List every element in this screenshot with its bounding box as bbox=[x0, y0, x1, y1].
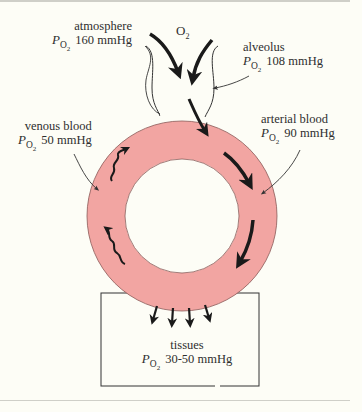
tissues-po2: PO230-50 mmHg bbox=[132, 352, 242, 368]
arterial-blood-label: arterial blood PO290 mmHg bbox=[261, 112, 335, 142]
o-subscript: O2 bbox=[26, 140, 36, 150]
p-symbol: P bbox=[142, 351, 150, 366]
arterial-blood-po2: PO290 mmHg bbox=[261, 126, 335, 142]
o2-molecule: O bbox=[176, 23, 185, 38]
alveolus-po2: PO2108 mmHg bbox=[243, 54, 323, 70]
tissues-name: tissues bbox=[132, 338, 242, 352]
atmosphere-value: 160 mmHg bbox=[75, 33, 132, 47]
tissues-value: 30-50 mmHg bbox=[165, 352, 232, 366]
p-symbol: P bbox=[243, 53, 251, 68]
blood-ring bbox=[87, 121, 277, 311]
o2-subscript: 2 bbox=[185, 32, 189, 41]
alveolus-label: alveolus PO2108 mmHg bbox=[243, 40, 323, 70]
o2-inflow-label: O2 bbox=[176, 23, 189, 41]
o-subscript: O2 bbox=[269, 133, 279, 143]
venous-blood-name: venous blood bbox=[18, 119, 92, 133]
alveolus-name: alveolus bbox=[243, 40, 323, 54]
alveolus-sac bbox=[146, 46, 218, 117]
arterial-blood-value: 90 mmHg bbox=[284, 126, 334, 140]
venous-blood-value: 50 mmHg bbox=[41, 133, 91, 147]
alveolus-value: 108 mmHg bbox=[266, 54, 323, 68]
atmosphere-po2: PO2160 mmHg bbox=[52, 33, 132, 49]
arterial-blood-name: arterial blood bbox=[261, 112, 335, 126]
o-subscript: O2 bbox=[150, 359, 160, 369]
p-symbol: P bbox=[18, 132, 26, 147]
venous-blood-label: venous blood PO250 mmHg bbox=[18, 119, 92, 149]
alveolus-leader bbox=[215, 76, 249, 88]
o-subscript: O2 bbox=[251, 61, 261, 71]
o-subscript: O2 bbox=[60, 40, 70, 50]
p-symbol: P bbox=[261, 125, 269, 140]
p-symbol: P bbox=[52, 32, 60, 47]
atmosphere-name: atmosphere bbox=[52, 19, 132, 33]
atmosphere-label: atmosphere PO2160 mmHg bbox=[52, 19, 132, 49]
venous-blood-po2: PO250 mmHg bbox=[18, 133, 92, 149]
tissues-label: tissues PO230-50 mmHg bbox=[132, 338, 242, 368]
